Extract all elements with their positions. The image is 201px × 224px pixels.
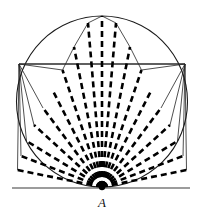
geometry-figure — [0, 0, 201, 224]
upper-chord-left-2 — [74, 23, 88, 47]
dashed-ray-1 — [21, 156, 102, 187]
dashed-ray-fan — [18, 16, 187, 187]
upper-chord-right-2 — [116, 23, 130, 47]
point-label-A: A — [98, 196, 106, 209]
figure-container: A — [0, 0, 201, 224]
upper-chord-left-1 — [63, 47, 75, 70]
upper-chord-right-0 — [142, 64, 186, 70]
upper-chord-left-0 — [19, 64, 63, 70]
upper-chord-right-1 — [130, 47, 142, 70]
dashed-ray-17 — [102, 156, 183, 187]
point-A-marker — [99, 184, 105, 190]
